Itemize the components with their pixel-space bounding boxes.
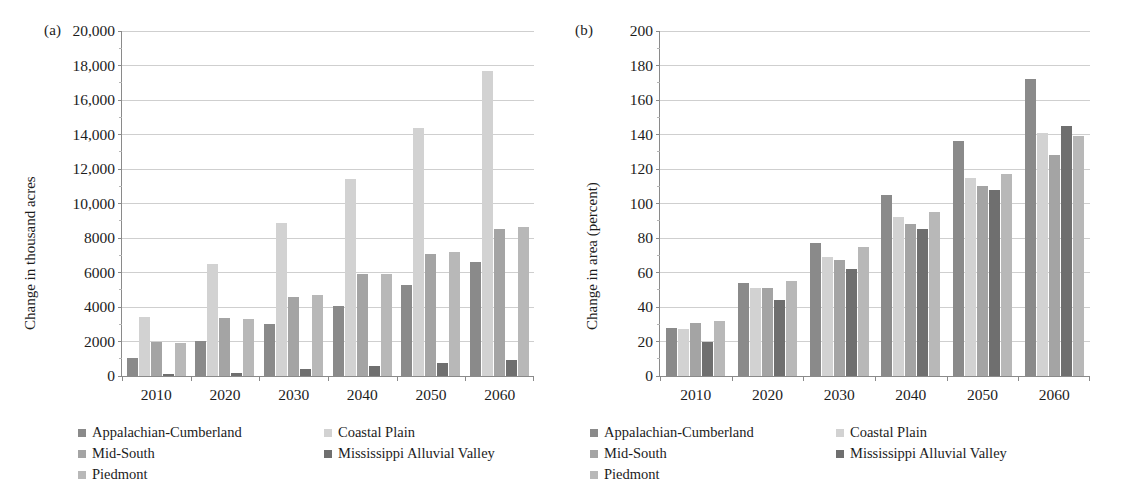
panel-a-y-axis-label: Change in thousand acres (22, 176, 39, 330)
bar-mid-south-2060 (1049, 155, 1060, 376)
bar-appalachian-cumberland-2040 (881, 195, 892, 376)
legend-label: Appalachian-Cumberland (92, 425, 242, 440)
xtick-mark (397, 376, 398, 381)
legend-item-mississippi-alluvial-valley[interactable]: Mississippi Alluvial Valley (836, 443, 1007, 464)
bar-coastal-plain-2010 (678, 329, 689, 376)
bar-appalachian-cumberland-2010 (666, 328, 677, 376)
bar-piedmont-2050 (449, 252, 460, 376)
panel-a-ytick-label: 20,000 (72, 22, 115, 40)
bar-piedmont-2020 (786, 281, 797, 376)
legend-swatch-icon (324, 429, 332, 437)
panel-a-ytick-label: 4000 (84, 298, 115, 316)
panel-a-plot-area: 0200040006000800010,00012,00014,00016,00… (122, 31, 534, 376)
panel-a-ytick-label: 14,000 (72, 126, 115, 144)
bar-group-2050: 2050 (397, 31, 466, 376)
legend-item-mid-south[interactable]: Mid-South (78, 443, 324, 464)
panel-b-xtick-label-2040: 2040 (895, 386, 926, 404)
legend-swatch-icon (590, 450, 598, 458)
bar-group-2040: 2040 (875, 31, 947, 376)
xtick-mark (259, 376, 260, 381)
bar-group-2050: 2050 (947, 31, 1019, 376)
panel-a-xtick-label-2020: 2020 (209, 386, 240, 404)
panel-b-xtick-label-2050: 2050 (967, 386, 998, 404)
xtick-mark (1018, 376, 1019, 381)
panel-b-xtick-label-2060: 2060 (1039, 386, 1070, 404)
panel-b-ytick-label: 40 (638, 298, 654, 316)
legend-item-coastal-plain[interactable]: Coastal Plain (324, 422, 495, 443)
bar-mid-south-2010 (690, 323, 701, 376)
bars (397, 31, 466, 376)
bar-piedmont-2060 (518, 227, 529, 376)
bar-coastal-plain-2020 (750, 288, 761, 376)
bar-group-2020: 2020 (732, 31, 804, 376)
panel-a-ytick-label: 18,000 (72, 57, 115, 75)
legend-item-coastal-plain[interactable]: Coastal Plain (836, 422, 1007, 443)
panel-a-tag: (a) (44, 22, 61, 39)
legend-item-mid-south[interactable]: Mid-South (590, 443, 836, 464)
xtick-mark (875, 376, 876, 381)
panel-b-ytick-label: 160 (630, 91, 653, 109)
bar-coastal-plain-2060 (1037, 133, 1048, 376)
bar-mid-south-2060 (494, 229, 505, 376)
legend-item-piedmont[interactable]: Piedmont (590, 464, 836, 485)
bar-mid-south-2040 (905, 224, 916, 376)
panel-b-xtick-label-2020: 2020 (752, 386, 783, 404)
panel-b-ytick-label: 0 (645, 367, 653, 385)
legend-item-piedmont[interactable]: Piedmont (78, 464, 324, 485)
bar-piedmont-2030 (858, 247, 869, 376)
legend-label: Mid-South (92, 446, 155, 461)
bars (328, 31, 397, 376)
bar-appalachian-cumberland-2020 (195, 341, 206, 376)
bar-coastal-plain-2030 (276, 223, 287, 376)
panel-b-ytick-label: 60 (638, 264, 654, 282)
legend-swatch-icon (836, 429, 844, 437)
bar-group-2020: 2020 (191, 31, 260, 376)
panel-b-ytick-label: 180 (630, 57, 653, 75)
legend-label: Piedmont (604, 467, 660, 482)
bar-mississippi-alluvial-valley-2040 (917, 229, 928, 376)
panel-a-bar-groups: 201020202030204020502060 (122, 31, 534, 376)
bar-mississippi-alluvial-valley-2060 (1061, 126, 1072, 376)
xtick-mark (328, 376, 329, 381)
bar-coastal-plain-2060 (482, 71, 493, 376)
bar-coastal-plain-2020 (207, 264, 218, 376)
bar-appalachian-cumberland-2030 (810, 243, 821, 376)
bar-mississippi-alluvial-valley-2020 (774, 300, 785, 376)
bar-coastal-plain-2040 (345, 179, 356, 377)
panel-b-tag: (b) (575, 22, 593, 39)
bar-group-2030: 2030 (259, 31, 328, 376)
bar-coastal-plain-2030 (822, 257, 833, 376)
xtick-mark (803, 376, 804, 381)
bar-mid-south-2020 (762, 288, 773, 376)
bars (259, 31, 328, 376)
legend-swatch-icon (78, 450, 86, 458)
bar-group-2010: 2010 (122, 31, 191, 376)
panel-a-xtick-label-2050: 2050 (415, 386, 446, 404)
figure-root: (a) Change in thousand acres 02000400060… (0, 0, 1124, 498)
legend-item-appalachian-cumberland[interactable]: Appalachian-Cumberland (78, 422, 324, 443)
bar-mississippi-alluvial-valley-2030 (846, 269, 857, 376)
panel-b-ytick-label: 100 (630, 195, 653, 213)
legend-item-mississippi-alluvial-valley[interactable]: Mississippi Alluvial Valley (324, 443, 495, 464)
bar-appalachian-cumberland-2040 (333, 306, 344, 376)
bar-coastal-plain-2010 (139, 317, 150, 377)
bar-mississippi-alluvial-valley-2010 (702, 342, 713, 377)
xtick-mark (660, 376, 661, 381)
bar-piedmont-2020 (243, 319, 254, 376)
bar-mid-south-2040 (357, 274, 368, 376)
legend-label: Mid-South (604, 446, 667, 461)
legend-item-appalachian-cumberland[interactable]: Appalachian-Cumberland (590, 422, 836, 443)
bar-appalachian-cumberland-2050 (953, 141, 964, 376)
bar-appalachian-cumberland-2030 (264, 324, 275, 376)
bar-coastal-plain-2050 (965, 178, 976, 376)
panel-b-ytick-label: 200 (630, 22, 653, 40)
legend-label: Mississippi Alluvial Valley (338, 446, 495, 461)
bars (875, 31, 947, 376)
panel-a-ytick-label: 6000 (84, 264, 115, 282)
bar-mississippi-alluvial-valley-2040 (369, 366, 380, 376)
panel-b: (b) Change in area (percent) 02040608010… (562, 0, 1124, 498)
bar-mid-south-2050 (425, 254, 436, 376)
bar-coastal-plain-2050 (413, 128, 424, 376)
bar-piedmont-2040 (381, 274, 392, 376)
bar-piedmont-2060 (1073, 136, 1084, 376)
